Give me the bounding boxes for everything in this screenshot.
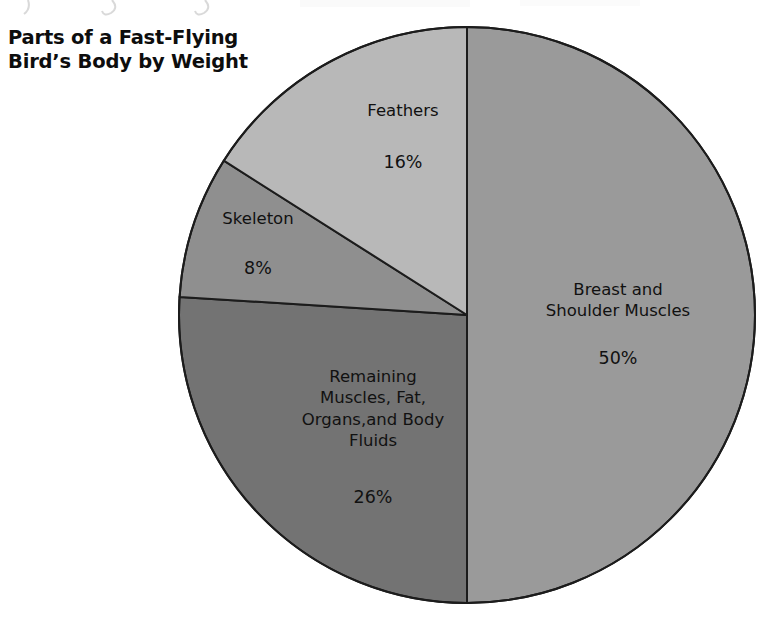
pie-slice bbox=[467, 27, 755, 603]
pie-slice-group bbox=[179, 27, 755, 603]
pie-chart bbox=[0, 0, 770, 631]
pie-slice bbox=[179, 297, 467, 603]
